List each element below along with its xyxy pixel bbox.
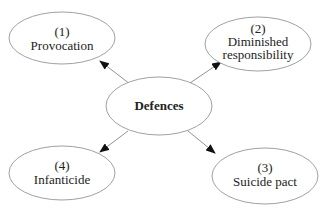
node-provocation: (1) Provocation <box>9 12 115 64</box>
node-diminished-responsibility: (2) Diminished responsibility <box>205 17 311 71</box>
node-label: Infanticide <box>34 172 91 187</box>
node-defences: Defences <box>106 77 212 135</box>
edge-to-provocation <box>100 61 130 84</box>
defences-diagram: (1) Provocation (2) Diminished responsib… <box>0 0 327 209</box>
edge-to-diminished-responsibility <box>190 62 221 83</box>
edge-to-suicide-pact <box>188 131 215 153</box>
node-infanticide: (4) Infanticide <box>9 146 115 200</box>
node-label-line2: responsibility <box>223 47 294 62</box>
node-label: Provocation <box>31 38 94 53</box>
node-label: Suicide pact <box>233 174 297 189</box>
edge-to-infanticide <box>100 131 128 152</box>
node-suicide-pact: (3) Suicide pact <box>212 148 318 204</box>
node-number: (4) <box>54 158 69 173</box>
center-label: Defences <box>134 98 183 113</box>
node-number: (1) <box>54 24 69 39</box>
node-number: (3) <box>257 160 272 175</box>
